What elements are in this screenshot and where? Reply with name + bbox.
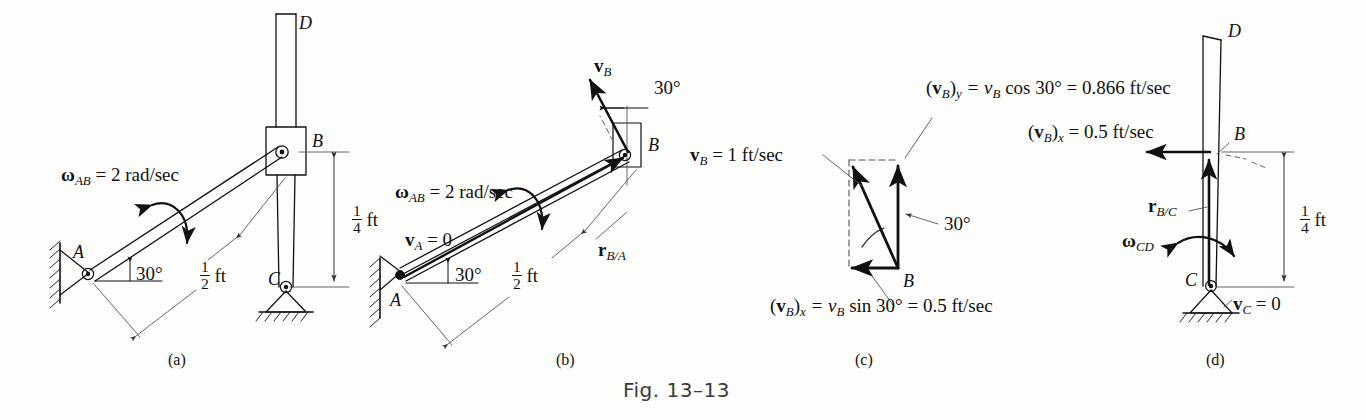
panel-b-angle-30-rod: 30° [455,265,482,284]
panel-a-dim-quarter: 1 4 ft [352,203,378,236]
panel-b-vb-label: vB [594,56,611,79]
panel-label-b: (b) [556,352,575,368]
panel-a-omega-ab-label: ωAB = 2 rad/sec [61,165,179,188]
panel-label-a: (a) [168,352,186,368]
panel-d-dim-quarter: 1 4 ft [1300,203,1326,236]
equals-v: = v [806,295,837,316]
panel-d-vbx-label: (vB)x = 0.5 ft/sec [1028,122,1154,145]
panel-a-point-D: D [299,14,312,32]
v-symbol: v [690,144,700,165]
panel-a-dim-half: 1 2 ft [200,259,226,292]
v-symbol: v [1233,293,1243,314]
unit-ft: ft [215,265,227,286]
fraction-one-half: 1 2 [512,259,522,292]
omega-subscript: AB [409,190,425,205]
panel-d-rbc-label: rB/C [1148,196,1177,219]
vbx-tail: sin 30° = 0.5 ft/sec [844,295,992,316]
panel-b-rba-label: rB/A [598,240,626,263]
panel-label-d: (d) [1206,352,1225,368]
omega-subscript: AB [75,173,91,188]
equals-v: = v [962,77,993,98]
unit-ft: ft [367,209,379,230]
v-subscript: B [604,64,612,79]
v-symbol: v [776,295,786,316]
v-value: = 1 ft/sec [707,144,783,165]
omega-symbol: ω [1122,230,1136,251]
panel-b-point-A: A [390,291,401,309]
omega-subscript: CD [1136,239,1154,254]
panel-d-omega-cd-label: ωCD [1122,231,1154,254]
unit-ft: ft [527,265,539,286]
panel-a-angle-30: 30° [136,264,163,283]
omega-symbol: ω [395,181,409,202]
v-symbol: v [594,55,604,76]
panel-a-point-B: B [312,132,323,150]
v-symbol: v [405,229,415,250]
panel-c-vbx-equation: (vB)x = vB sin 30° = 0.5 ft/sec [770,296,993,319]
panel-d-point-C: C [1185,271,1197,289]
v-subscript: B [786,304,794,319]
figure-caption: Fig. 13–13 [623,380,730,400]
panel-b-omega-ab-label: ωAB = 2 rad/sec [395,182,513,205]
unit-ft: ft [1315,209,1327,230]
panel-d-vc-label: vC = 0 [1233,294,1281,317]
v-value: = 0 [422,229,452,250]
fraction-one-quarter: 1 4 [352,203,362,236]
panel-b-dim-half: 1 2 ft [512,259,538,292]
fraction-one-half: 1 2 [200,259,210,292]
panel-a-point-C: C [268,270,280,288]
panel-b-angle-30-top: 30° [654,78,681,97]
v-symbol: v [932,77,942,98]
r-subscript: B/C [1156,204,1176,219]
panel-c-vb-label: vB = 1 ft/sec [690,145,783,168]
v-subscript: B [1044,130,1052,145]
v-subscript: B [942,86,950,101]
omega-value: = 2 rad/sec [91,164,179,185]
panel-c-angle-30: 30° [944,214,971,233]
panel-b-artwork [370,80,648,345]
panel-c-vby-equation: (vB)y = vB cos 30° = 0.866 ft/sec [926,78,1171,101]
omega-symbol: ω [61,164,75,185]
r-subscript: B/A [606,248,625,263]
v-subscript: C [1243,302,1252,317]
panel-a-point-A: A [73,243,84,261]
vbx-value: = 0.5 ft/sec [1064,121,1154,142]
panel-c-point-B: B [903,272,914,290]
vby-tail: cos 30° = 0.866 ft/sec [1000,77,1170,98]
panel-b-point-B: B [648,136,659,154]
panel-b-va-label: vA = 0 [405,230,452,253]
omega-value: = 2 rad/sec [425,181,513,202]
panel-d-point-D: D [1228,22,1241,40]
panel-c-artwork [823,118,938,305]
fraction-one-quarter: 1 4 [1300,203,1310,236]
vc-value: = 0 [1251,293,1281,314]
panel-d-point-B: B [1234,125,1245,143]
panel-label-c: (c) [855,352,873,368]
v-symbol: v [1034,121,1044,142]
